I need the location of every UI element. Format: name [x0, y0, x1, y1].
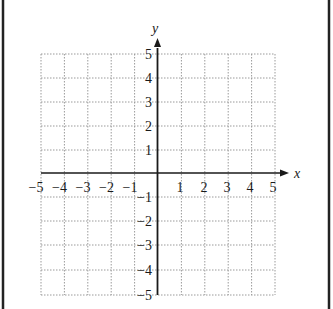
- x-tick-label: 2: [201, 180, 208, 195]
- y-axis-label: y: [150, 21, 159, 36]
- x-tick-label: 1: [177, 180, 184, 195]
- x-tick-label: 3: [224, 180, 231, 195]
- coordinate-grid-figure: x y −5 −4 −3 −2 −1 1 2 3 4 5 5 4 3 2 1 −…: [0, 0, 333, 309]
- y-tick-label: 3: [145, 95, 152, 110]
- x-tick-label: 5: [270, 180, 277, 195]
- x-tick-label: −4: [52, 180, 67, 195]
- y-tick-label: −2: [137, 214, 152, 229]
- y-tick-label: −3: [137, 238, 152, 253]
- x-tick-label: −5: [29, 180, 44, 195]
- x-tick-label: −3: [76, 180, 91, 195]
- y-axis: [154, 38, 161, 295]
- y-tick-labels: 5 4 3 2 1 −1 −2 −3 −4 −5: [137, 47, 152, 303]
- x-tick-label: −1: [123, 180, 138, 195]
- coordinate-plane: x y −5 −4 −3 −2 −1 1 2 3 4 5 5 4 3 2 1 −…: [0, 0, 333, 309]
- y-axis-arrow-icon: [154, 38, 161, 47]
- y-tick-label: −1: [137, 190, 152, 205]
- y-tick-label: −4: [137, 263, 152, 278]
- y-tick-label: 2: [145, 119, 152, 134]
- x-tick-label: −2: [99, 180, 114, 195]
- y-tick-label: 1: [145, 143, 152, 158]
- y-tick-label: −5: [137, 288, 152, 303]
- x-axis-arrow-icon: [280, 170, 289, 177]
- x-tick-labels: −5 −4 −3 −2 −1 1 2 3 4 5: [29, 180, 277, 195]
- x-tick-label: 4: [247, 180, 254, 195]
- y-tick-label: 5: [145, 47, 152, 62]
- x-axis-label: x: [293, 166, 301, 181]
- y-tick-label: 4: [145, 71, 152, 86]
